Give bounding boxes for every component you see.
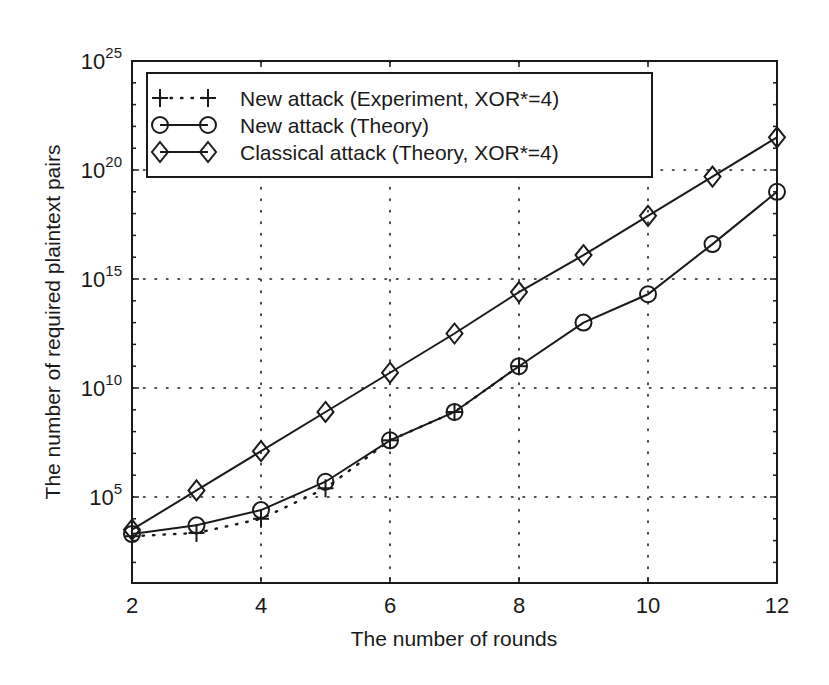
- y-tick-label: 105: [89, 480, 122, 510]
- series-line: [132, 192, 777, 534]
- y-axis-title: The number of required plaintext pairs: [41, 145, 64, 500]
- chart-canvas: 24681012 1051010101510201025 The number …: [0, 0, 829, 685]
- legend-label: New attack (Theory): [240, 114, 429, 137]
- x-tick-label: 2: [126, 593, 138, 618]
- y-tick-label: 1020: [81, 153, 122, 183]
- series-line: [132, 366, 519, 536]
- x-tick-label: 10: [636, 593, 660, 618]
- series-diamond: [124, 127, 785, 539]
- x-tick-label: 4: [255, 593, 267, 618]
- x-tick-labels: 24681012: [126, 593, 789, 618]
- x-tick-label: 6: [384, 593, 396, 618]
- legend-label: New attack (Experiment, XOR*=4): [240, 87, 559, 110]
- x-tick-label: 12: [765, 593, 789, 618]
- y-tick-label: 1010: [81, 371, 122, 401]
- legend-label: Classical attack (Theory, XOR*=4): [240, 141, 559, 164]
- legend: New attack (Experiment, XOR*=4)New attac…: [147, 73, 652, 177]
- y-tick-label: 1015: [81, 262, 122, 292]
- series-circle: [124, 184, 785, 542]
- y-tick-label: 1025: [81, 44, 122, 74]
- series-line: [132, 137, 777, 529]
- data-series: [124, 127, 785, 545]
- series-plus: [124, 357, 527, 545]
- x-tick-label: 8: [513, 593, 525, 618]
- y-tick-labels: 1051010101510201025: [81, 44, 122, 510]
- x-axis-title: The number of rounds: [351, 627, 558, 650]
